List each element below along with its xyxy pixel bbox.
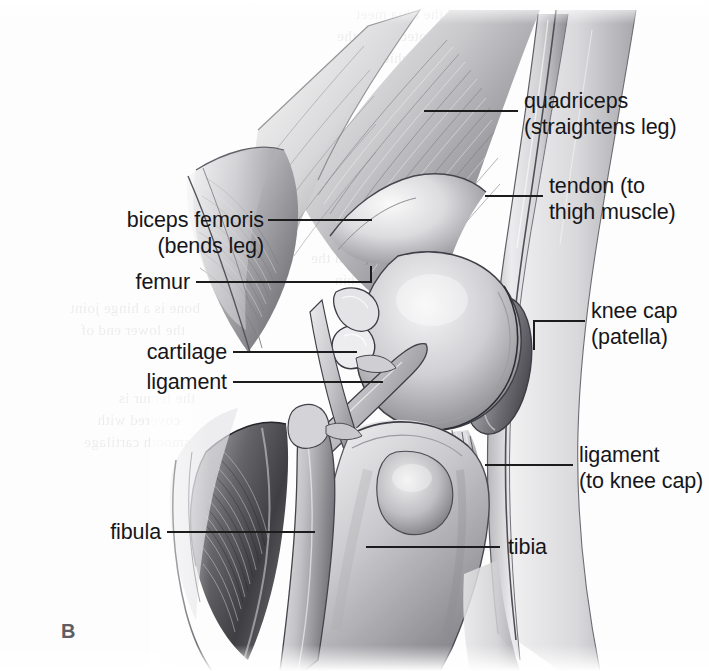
label-tendon-line2: thigh muscle)	[549, 199, 676, 225]
label-tibia-line1: tibia	[508, 534, 547, 560]
label-femur: femur	[52, 269, 190, 295]
leader-line-ligament-knee-cap	[485, 464, 573, 466]
figure-letter: B	[61, 620, 76, 643]
label-knee-cap-line2: (patella)	[591, 324, 677, 350]
leader-line-quadriceps	[424, 110, 518, 112]
label-fibula: fibula	[52, 519, 161, 545]
leader-line-biceps-femoris	[268, 219, 372, 221]
leader-line-fibula	[167, 531, 315, 533]
label-tendon-to-thigh-muscle: tendon (to thigh muscle)	[549, 173, 676, 225]
label-tibia: tibia	[508, 534, 547, 560]
label-biceps-femoris: biceps femoris (bends leg)	[52, 207, 264, 259]
leader-line-tendon	[485, 195, 543, 197]
label-cartilage: cartilage	[52, 339, 227, 365]
label-ligament-to-knee-cap: ligament (to knee cap)	[579, 442, 703, 494]
label-knee-cap-line1: knee cap	[591, 298, 677, 324]
label-cartilage-line1: cartilage	[52, 339, 227, 365]
leader-elbow-femur	[370, 266, 372, 282]
leader-line-cartilage	[233, 351, 357, 353]
anatomical-figure-knee-joint: and the tibia meet is protected by the p…	[0, 0, 709, 671]
label-ligament-knee-cap-line1: ligament	[579, 442, 703, 468]
label-knee-cap-patella: knee cap (patella)	[591, 298, 677, 350]
label-quadriceps-line2: (straightens leg)	[524, 114, 676, 140]
label-biceps-femoris-line1: biceps femoris	[52, 207, 264, 233]
label-ligament-line1: ligament	[52, 369, 227, 395]
label-biceps-femoris-line2: (bends leg)	[52, 233, 264, 259]
leader-line-femur	[196, 281, 372, 283]
label-quadriceps: quadriceps (straightens leg)	[524, 88, 676, 140]
label-ligament-knee-cap-line2: (to knee cap)	[579, 468, 703, 494]
leader-elbow-knee-cap	[533, 320, 535, 350]
label-ligament: ligament	[52, 369, 227, 395]
label-fibula-line1: fibula	[52, 519, 161, 545]
leader-line-ligament	[233, 381, 383, 383]
label-quadriceps-line1: quadriceps	[524, 88, 676, 114]
label-tendon-line1: tendon (to	[549, 173, 676, 199]
leader-line-tibia	[366, 546, 500, 548]
leader-line-knee-cap	[533, 320, 585, 322]
label-femur-line1: femur	[52, 269, 190, 295]
